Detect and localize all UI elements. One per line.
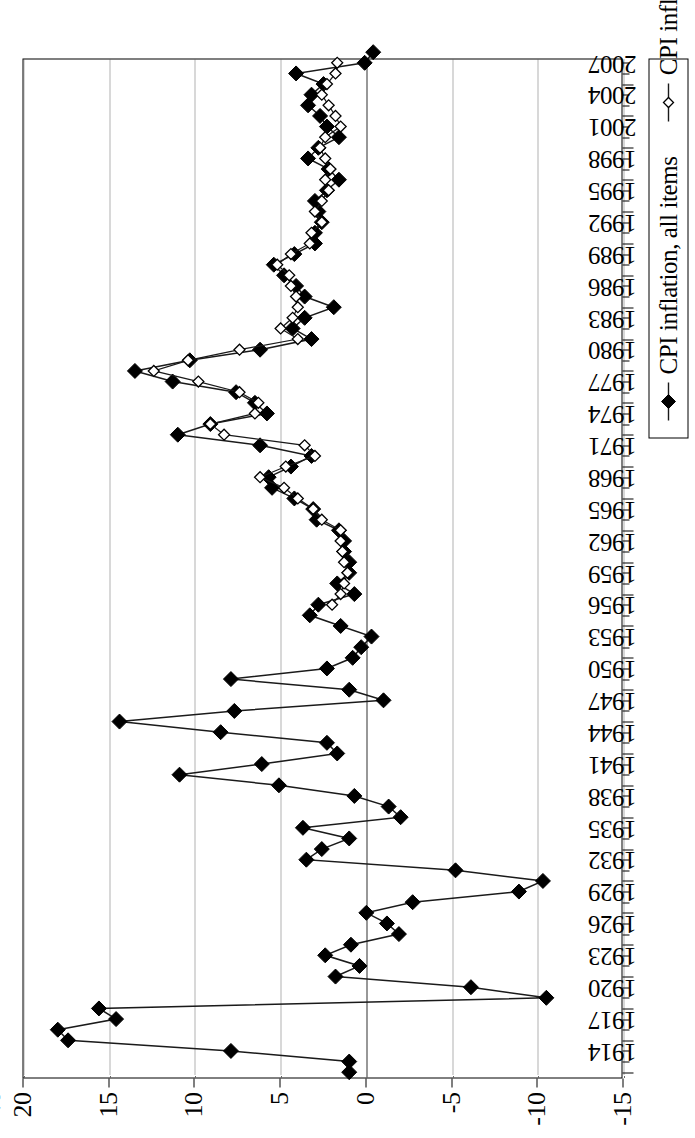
category-axis-tick	[622, 530, 633, 531]
category-axis-tick	[622, 817, 633, 818]
value-axis-tick-label: 15	[95, 1092, 121, 1117]
category-axis-tick	[622, 636, 629, 637]
category-axis-tick	[622, 912, 633, 913]
category-axis-tick	[622, 360, 629, 361]
category-axis-tick	[622, 232, 629, 233]
chart-screenshot: 20151050-5-10-15% 1914191719201923192619…	[0, 0, 695, 1138]
category-axis-tick	[622, 997, 629, 998]
value-axis-tick-label: -10	[523, 1092, 549, 1125]
category-axis-tick	[622, 583, 629, 584]
filled-diamond-icon	[659, 381, 677, 421]
category-axis-tick	[622, 317, 629, 318]
category-axis-tick	[622, 891, 629, 892]
category-axis-tick	[622, 285, 629, 286]
category-axis-tick	[622, 700, 629, 701]
category-axis-tick	[622, 753, 633, 754]
category-axis-tick	[622, 657, 633, 658]
series-core	[148, 57, 353, 610]
category-axis-tick	[622, 594, 633, 595]
category-axis-tick	[622, 413, 629, 414]
category-axis-tick	[622, 466, 633, 467]
category-axis-tick	[622, 923, 629, 924]
value-axis: 20151050-5-10-15%	[22, 1078, 622, 1138]
category-axis-tick	[622, 94, 629, 95]
category-axis-tick	[622, 615, 629, 616]
value-axis-tick	[279, 1078, 280, 1087]
category-axis-tick	[622, 477, 629, 478]
category-axis-tick	[622, 455, 629, 456]
category-axis-tick	[622, 126, 629, 127]
category-axis-tick	[622, 328, 629, 329]
category-axis-tick	[622, 307, 633, 308]
category-axis-tick	[622, 424, 629, 425]
category-axis-tick	[622, 264, 629, 265]
category-axis-tick	[622, 1040, 633, 1041]
category-axis-tick	[622, 732, 629, 733]
category-axis-tick	[622, 105, 629, 106]
category-axis-tick	[622, 955, 629, 956]
value-axis-tick-label: 20	[9, 1092, 35, 1117]
open-diamond-icon	[659, 82, 677, 122]
category-axis-tick	[622, 572, 629, 573]
category-axis-tick	[622, 849, 633, 850]
figure: 20151050-5-10-15% 1914191719201923192619…	[0, 0, 695, 1138]
category-axis-tick	[622, 562, 633, 563]
category-axis-tick	[622, 1072, 633, 1073]
category-axis-tick	[622, 689, 633, 690]
category-axis-tick	[622, 604, 629, 605]
category-axis-tick	[622, 296, 629, 297]
category-axis-tick	[622, 254, 629, 255]
category-axis-tick	[622, 785, 633, 786]
category-axis-tick	[622, 190, 629, 191]
category-axis-tick	[622, 795, 629, 796]
category-axis-tick	[622, 243, 633, 244]
category-axis-tick	[622, 742, 629, 743]
category-axis-tick	[622, 710, 629, 711]
category-axis-tick	[622, 370, 633, 371]
category-axis-tick	[622, 179, 633, 180]
category-axis-tick	[622, 381, 629, 382]
category-axis-tick	[622, 625, 633, 626]
category-axis-tick	[622, 1019, 629, 1020]
category-axis-tick	[622, 275, 633, 276]
category-axis-tick	[622, 84, 633, 85]
category-axis-tick	[622, 764, 629, 765]
value-axis-tick	[451, 1078, 452, 1087]
category-axis-tick	[622, 222, 629, 223]
category-axis-tick	[622, 976, 633, 977]
category-axis-tick	[622, 1029, 629, 1030]
category-axis-tick	[622, 551, 629, 552]
value-axis-tick	[365, 1078, 366, 1087]
category-axis-tick	[622, 147, 633, 148]
plot-area	[22, 58, 622, 1078]
value-axis-tick-label: 0	[352, 1092, 378, 1105]
category-axis-tick	[622, 339, 633, 340]
value-axis-tick-label: 10	[180, 1092, 206, 1117]
rotated-figure-wrapper: 20151050-5-10-15% 1914191719201923192619…	[0, 0, 695, 1138]
category-axis-tick	[622, 965, 629, 966]
category-axis-tick	[622, 934, 629, 935]
category-axis-tick	[622, 1008, 633, 1009]
category-axis-tick	[622, 880, 633, 881]
category-axis-tick	[622, 1050, 629, 1051]
category-axis-tick	[622, 668, 629, 669]
category-axis-tick	[622, 509, 629, 510]
value-axis-tick	[108, 1078, 109, 1087]
category-axis-tick	[622, 62, 629, 63]
category-axis-tick	[622, 1061, 629, 1062]
category-axis-tick	[622, 115, 633, 116]
category-axis-tick	[622, 434, 633, 435]
category-axis-tick	[622, 774, 629, 775]
category-axis-tick	[622, 987, 629, 988]
value-axis-tick	[536, 1078, 537, 1087]
category-axis-tick	[622, 838, 629, 839]
legend: CPI inflation, all itemsCPI inflation, l…	[648, 58, 688, 438]
category-axis-tick	[622, 445, 629, 446]
category-axis-tick	[622, 73, 629, 74]
value-axis-tick	[193, 1078, 194, 1087]
legend-label: CPI inflation, less food and energy	[654, 0, 682, 75]
value-axis-tick	[22, 1078, 23, 1087]
category-axis-tick	[622, 200, 629, 201]
value-axis-unit-label: %	[0, 1092, 6, 1112]
legend-entry-core: CPI inflation, less food and energy	[654, 0, 682, 122]
